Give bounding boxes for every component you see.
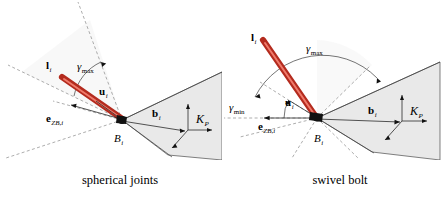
label-base-normal: eZB,i: [258, 120, 275, 135]
panel-swivel-bolt: li ui eZB,i Bi bi KP γmax γmin: [222, 0, 444, 160]
panel-spherical-joints: li ui eZB,i Bi bi KP γmax: [0, 0, 222, 160]
base-normal-arrowhead: [264, 116, 270, 120]
label-base-normal: eZB,i: [46, 112, 63, 127]
base-normal-arrowhead: [71, 104, 77, 108]
cone-boundary-lower: [6, 120, 122, 158]
angle-arc-gamma-max-arrowhead: [377, 78, 381, 84]
label-angle-min: γmin: [229, 101, 245, 116]
label-base-point: Bi: [314, 132, 323, 147]
label-base-point: Bi: [114, 132, 123, 147]
figure-root: li ui eZB,i Bi bi KP γmax: [0, 0, 444, 203]
swivel-limit-mid: [240, 118, 317, 137]
label-unit-vector: ui: [285, 96, 294, 111]
platform-triangle: [122, 72, 222, 160]
caption-spherical-joints: spherical joints: [20, 167, 220, 193]
caption-swivel-bolt: swivel bolt: [240, 167, 440, 193]
label-rod: li: [251, 31, 257, 46]
joint-node-facet: [116, 115, 127, 124]
